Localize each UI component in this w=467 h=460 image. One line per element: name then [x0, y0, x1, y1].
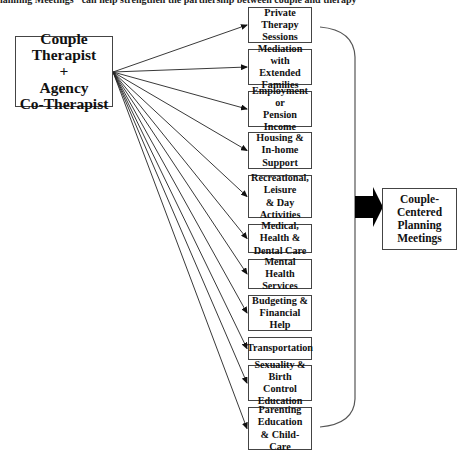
destination-label-line: Couple- — [397, 193, 442, 206]
service-private-therapy-label: Private TherapySessions — [250, 7, 310, 43]
service-mental-health-label: Mental HealthServices — [250, 256, 310, 292]
service-recreational-label-line: & Day Activities — [250, 197, 310, 221]
source-label-line: + — [20, 63, 109, 79]
service-private-therapy-label-line: Sessions — [250, 31, 310, 43]
service-mediation-label-line: Mediation with — [250, 43, 310, 67]
service-employment-label-line: Pension Income — [250, 109, 310, 133]
service-housing-label-line: In-home Support — [250, 144, 310, 168]
service-budgeting-label: Budgeting &Financial Help — [250, 295, 310, 331]
service-employment-label: Employment orPension Income — [250, 85, 310, 133]
service-box-transportation: Transportation — [248, 337, 312, 360]
arrow-to-mental-health — [113, 72, 247, 274]
arrow-to-transportation — [113, 72, 247, 349]
service-budgeting-label-line: Budgeting & — [250, 295, 310, 307]
service-medical-label-line: Dental Care — [250, 245, 310, 257]
couple-centered-planning-meetings-box: Couple-CenteredPlanningMeetings — [382, 188, 457, 250]
arrow-to-budgeting — [113, 72, 247, 313]
service-recreational-label-line: Recreational, — [250, 172, 310, 184]
destination-label-line: Planning — [397, 219, 442, 232]
arrow-to-housing — [113, 72, 247, 151]
service-box-housing: Housing &In-home Support — [248, 132, 312, 169]
service-box-parenting: ParentingEducation& Child-Care — [248, 407, 312, 450]
arrow-to-recreational — [113, 72, 247, 197]
service-parenting-label: ParentingEducation& Child-Care — [250, 404, 310, 452]
service-box-medical: Medical, Health &Dental Care — [248, 224, 312, 253]
service-sexuality-label: Sexuality & BirthControl Education — [250, 359, 310, 407]
source-label-line: Therapist — [20, 47, 109, 63]
arrow-to-mediation — [113, 67, 247, 72]
header-caption: lanning Meetings" can help strengthen th… — [0, 0, 467, 6]
arrow-to-private-therapy — [113, 25, 247, 72]
service-box-budgeting: Budgeting &Financial Help — [248, 295, 312, 331]
service-box-private-therapy: Private TherapySessions — [248, 7, 312, 43]
service-parenting-label-line: Parenting — [250, 404, 310, 416]
destination-label: Couple-CenteredPlanningMeetings — [397, 193, 442, 246]
service-housing-label: Housing &In-home Support — [250, 132, 310, 168]
service-sexuality-label-line: Sexuality & Birth — [250, 359, 310, 383]
service-private-therapy-label-line: Private Therapy — [250, 7, 310, 31]
service-transportation-label: Transportation — [247, 342, 313, 354]
service-box-recreational: Recreational,Leisure& Day Activities — [248, 175, 312, 218]
service-recreational-label-line: Leisure — [250, 184, 310, 196]
service-budgeting-label-line: Financial Help — [250, 307, 310, 331]
destination-label-line: Centered — [397, 206, 442, 219]
source-label-line: Co-Therapist — [20, 96, 109, 112]
arrow-to-parenting — [113, 72, 247, 429]
service-box-mental-health: Mental HealthServices — [248, 259, 312, 289]
service-parenting-label-line: Education — [250, 416, 310, 428]
big-arrow-icon — [355, 187, 383, 227]
service-box-sexuality: Sexuality & BirthControl Education — [248, 365, 312, 401]
source-label: CoupleTherapist+AgencyCo-Therapist — [20, 31, 109, 112]
service-mental-health-label-line: Services — [250, 280, 310, 292]
service-employment-label-line: Employment or — [250, 85, 310, 109]
service-medical-label-line: Medical, Health & — [250, 220, 310, 244]
service-recreational-label: Recreational,Leisure& Day Activities — [250, 172, 310, 220]
arrow-to-medical — [113, 72, 247, 239]
service-medical-label: Medical, Health &Dental Care — [250, 220, 310, 256]
service-mental-health-label-line: Mental Health — [250, 256, 310, 280]
destination-label-line: Meetings — [397, 232, 442, 245]
arrow-to-employment — [113, 72, 247, 109]
service-housing-label-line: Housing & — [250, 132, 310, 144]
arrow-to-sexuality — [113, 72, 247, 383]
service-parenting-label-line: & Child-Care — [250, 429, 310, 453]
service-box-employment: Employment orPension Income — [248, 91, 312, 127]
service-mediation-label: Mediation withExtended Families — [250, 43, 310, 91]
couple-therapist-box: CoupleTherapist+AgencyCo-Therapist — [15, 36, 113, 107]
service-transportation-label-line: Transportation — [247, 342, 313, 354]
service-box-mediation: Mediation withExtended Families — [248, 49, 312, 85]
source-label-line: Couple — [20, 31, 109, 47]
grouping-bracket — [320, 27, 355, 427]
source-label-line: Agency — [20, 80, 109, 96]
